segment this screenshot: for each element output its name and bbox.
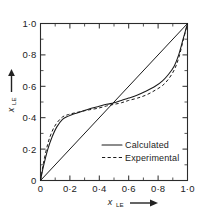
xy-equilibrium-plot: 00·20·40·60·81·0 00·20·40·60·81·0 x LE x… <box>0 0 205 216</box>
y-axis-title-symbol: x <box>6 107 16 113</box>
y-axis-title-subscript: LE <box>10 97 17 105</box>
x-tick-label: 0·4 <box>92 183 106 194</box>
x-tick-label: 0·6 <box>122 183 136 194</box>
y-tick-label: 0·4 <box>22 112 36 123</box>
x-tick-label: 0·2 <box>63 183 77 194</box>
y-tick-label: 0 <box>31 175 36 186</box>
chart-figure: 00·20·40·60·81·0 00·20·40·60·81·0 x LE x… <box>0 0 205 216</box>
legend-label: Experimental <box>125 153 179 163</box>
x-tick-label: 0·8 <box>151 183 165 194</box>
x-tick-label: 1·0 <box>180 183 194 194</box>
x-axis-title-subscript: LE <box>116 201 124 208</box>
x-tick-label: 0 <box>38 183 43 194</box>
legend-label: Calculated <box>125 140 169 150</box>
x-axis-title-symbol: x <box>107 197 113 207</box>
y-tick-label: 0·6 <box>22 81 36 92</box>
y-tick-label: 0·2 <box>22 144 36 155</box>
y-tick-label: 0·8 <box>22 49 36 60</box>
y-tick-label: 1·0 <box>22 18 36 29</box>
